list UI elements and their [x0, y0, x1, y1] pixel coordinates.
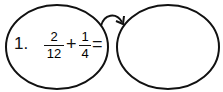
answer-bubble[interactable] — [117, 5, 219, 89]
equals-sign: = — [92, 34, 103, 55]
fraction-a-numerator: 2 — [44, 30, 64, 44]
fraction-a: 2 12 — [44, 30, 64, 61]
plus-sign: + — [66, 34, 77, 55]
fraction-b: 1 4 — [79, 30, 91, 61]
worksheet-drawing — [0, 0, 223, 92]
fraction-b-numerator: 1 — [79, 30, 91, 44]
fraction-b-denominator: 4 — [79, 47, 91, 61]
fraction-a-denominator: 12 — [44, 47, 64, 61]
arrow-icon — [101, 16, 122, 26]
problem-number: 1. — [14, 34, 28, 54]
